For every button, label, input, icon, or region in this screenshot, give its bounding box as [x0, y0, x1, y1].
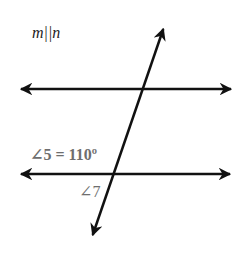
parallel-statement-label: m||n	[32, 24, 60, 42]
angle-5-label: ∠5 = 110º	[30, 145, 97, 164]
parallel-lines-diagram: m||n ∠5 = 110º ∠7	[0, 0, 248, 254]
transversal-line	[93, 29, 164, 235]
angle-7-label: ∠7	[79, 182, 100, 201]
